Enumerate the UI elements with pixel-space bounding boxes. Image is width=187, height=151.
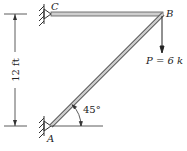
load-arrow-icon xyxy=(160,16,164,53)
truss-diagram: 45° 12 ft P = 6 k C B A xyxy=(0,0,187,151)
pin-a-icon xyxy=(44,121,51,131)
node-label-b: B xyxy=(165,8,173,19)
wall-support-a xyxy=(39,116,44,138)
angle-arc-icon xyxy=(72,105,82,126)
member-cb xyxy=(51,12,163,16)
node-label-c: C xyxy=(51,1,59,12)
dimension-label: 12 ft xyxy=(10,58,21,82)
pin-c-icon xyxy=(44,9,51,19)
load-label: P = 6 k xyxy=(145,55,183,66)
angle-label: 45° xyxy=(83,104,101,115)
member-ab xyxy=(51,14,163,126)
wall-support-c xyxy=(39,4,44,26)
node-label-a: A xyxy=(46,133,54,144)
